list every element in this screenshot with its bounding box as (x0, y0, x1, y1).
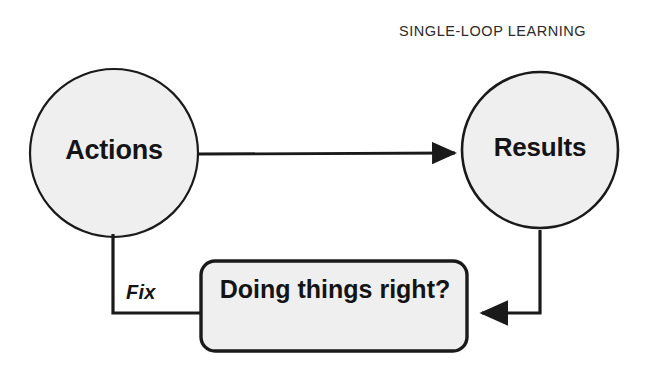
edge-results-to-question (482, 230, 540, 313)
node-question-box (201, 261, 467, 351)
diagram-shapes (0, 0, 645, 382)
edge-actions-to-results (198, 153, 455, 154)
diagram-canvas: SINGLE-LOOP LEARNING Actions Results Doi… (0, 0, 645, 382)
node-results-circle (462, 72, 618, 228)
edge-fix-label: Fix (126, 281, 156, 304)
node-actions-circle (30, 69, 198, 237)
diagram-title: SINGLE-LOOP LEARNING (399, 23, 586, 39)
